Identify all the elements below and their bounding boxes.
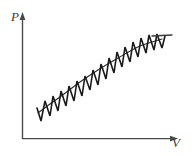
- pressure-axis: [20, 12, 26, 139]
- sawtooth-cycle-path: [37, 34, 165, 121]
- pv-diagram-figure: P V: [0, 0, 194, 156]
- pv-diagram-canvas: [0, 0, 194, 156]
- curve-tail-segment: [152, 35, 172, 36]
- volume-axis: [22, 136, 178, 142]
- volume-axis-label: V: [172, 136, 180, 149]
- pressure-axis-label: P: [11, 10, 19, 23]
- arrow-up-icon: [20, 12, 26, 20]
